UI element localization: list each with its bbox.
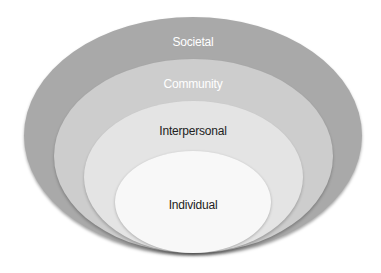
interpersonal-label: Interpersonal — [159, 124, 226, 138]
individual-label: Individual — [169, 198, 218, 212]
societal-label: Societal — [172, 35, 213, 49]
community-label: Community — [164, 77, 223, 91]
